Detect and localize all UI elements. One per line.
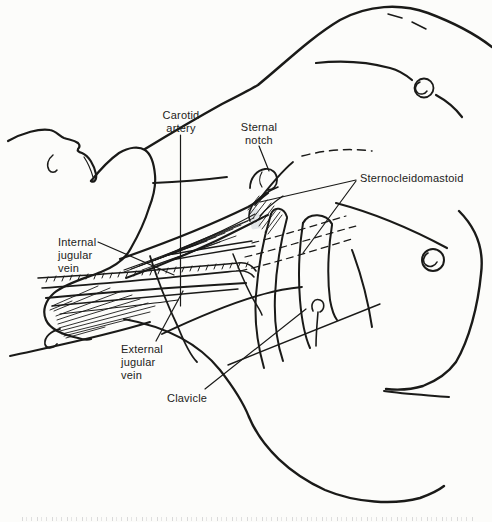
label-sternal-notch: Sternal notch bbox=[241, 121, 277, 146]
anatomy-figure-page: Carotid artery Sternal notch Sternocleid… bbox=[0, 0, 492, 522]
sternal-notch-contour bbox=[250, 169, 277, 190]
upper-chest-arc-left bbox=[316, 62, 412, 80]
label-sternal-notch-line1: Sternal bbox=[241, 121, 277, 133]
nipple-upper bbox=[415, 79, 434, 98]
nipple-upper-curl bbox=[416, 82, 427, 94]
internal-jugular-leader-line bbox=[98, 242, 174, 275]
mouth-crease bbox=[84, 157, 93, 177]
label-external-jugular-line1: External bbox=[121, 343, 163, 355]
chest-fold-line bbox=[352, 250, 372, 327]
label-clavicle: Clavicle bbox=[167, 392, 207, 404]
hooked-vessel-detail bbox=[312, 300, 324, 346]
label-carotid-artery-line1: Carotid bbox=[163, 109, 200, 121]
label-external-jugular-line3: vein bbox=[121, 369, 142, 381]
upper-chest-arc-right bbox=[436, 95, 462, 117]
label-sternocleidomastoid-line1: Sternocleidomastoid bbox=[360, 172, 463, 184]
axilla-fold-line bbox=[384, 391, 449, 397]
label-external-jugular-vein: External jugular vein bbox=[120, 343, 163, 381]
label-carotid-artery: Carotid artery bbox=[163, 109, 200, 134]
sternocleidomastoid-leader-line-1 bbox=[260, 180, 356, 202]
nipple-lower-curl bbox=[424, 253, 437, 266]
label-internal-jugular-line3: vein bbox=[58, 262, 79, 274]
scm-clavicular-head-left-edge bbox=[299, 223, 310, 348]
clavicle-band-lower bbox=[60, 300, 178, 314]
scm-clavicular-head-right-edge bbox=[328, 225, 337, 320]
label-carotid-artery-line2: artery bbox=[166, 122, 196, 134]
shoulder-ball-outline bbox=[249, 417, 444, 502]
head-top-arc bbox=[145, 7, 492, 149]
head-arc-dashes bbox=[388, 14, 426, 29]
label-internal-jugular-line1: Internal bbox=[58, 236, 96, 248]
label-sternal-notch-line2: notch bbox=[245, 134, 273, 146]
nipple-lower bbox=[422, 249, 444, 271]
label-clavicle-line1: Clavicle bbox=[167, 392, 207, 404]
jaw-crease-line bbox=[153, 177, 227, 183]
lower-chest-outline bbox=[386, 211, 482, 390]
label-internal-jugular-line2: jugular bbox=[57, 249, 93, 261]
clavicle-contour-line bbox=[228, 304, 380, 365]
anterior-chest-line bbox=[336, 203, 447, 248]
cropped-caption-text-fragment bbox=[22, 517, 474, 521]
sternal-notch-leader-line bbox=[259, 146, 269, 171]
nose-ala-crease bbox=[48, 155, 57, 172]
scm-sternal-head-left-edge bbox=[255, 214, 271, 368]
sternal-notch-inner-flick bbox=[260, 172, 262, 187]
neck-anatomy-illustration: Carotid artery Sternal notch Sternocleid… bbox=[0, 0, 492, 522]
nostril-detail bbox=[60, 149, 66, 162]
label-external-jugular-line2: jugular bbox=[120, 356, 156, 368]
label-sternocleidomastoid: Sternocleidomastoid bbox=[360, 172, 463, 184]
far-neck-contour-dashed bbox=[302, 150, 372, 156]
label-internal-jugular-vein: Internal jugular vein bbox=[57, 236, 96, 274]
